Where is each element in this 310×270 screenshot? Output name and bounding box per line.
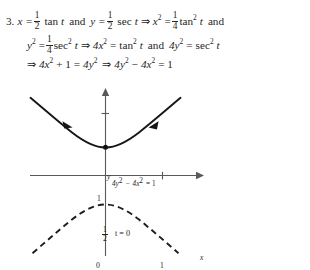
four-y-term-c: 4y [114, 58, 125, 70]
solution-line-2: y2=14sec2t⇒4x2=tan2tand4y2=sec2t [27, 35, 220, 55]
sec-operator-c: sec [196, 39, 210, 51]
exponent-b: 2 [193, 13, 197, 22]
exponent-j: 2 [94, 56, 98, 65]
four-x-term-b: 4x [39, 58, 50, 70]
exponent-g: 2 [180, 37, 184, 46]
curve-eq-lhs: 4y [112, 180, 119, 188]
curve-equation-label: 4y2−4x2= 1 [112, 181, 156, 189]
fraction-one-half-b: 12 [107, 11, 114, 31]
implies-arrow-c: ⇒ [27, 58, 36, 70]
and-word-a: and [69, 15, 85, 27]
fraction-one-half-vertex: 12 [102, 226, 108, 242]
tan-operator-a: tan [44, 15, 58, 27]
exponent-a: 2 [158, 13, 162, 22]
equals-one: = 1 [158, 58, 173, 70]
var-t-c: t [200, 15, 203, 27]
var-t-e: t [140, 39, 143, 51]
fraction-one-quarter-b: 14 [46, 35, 53, 55]
var-t-b: t [135, 15, 138, 27]
graph-canvas [0, 84, 310, 261]
var-t-f: t [217, 39, 220, 51]
var-t-d: t [75, 39, 78, 51]
exponent-c: 2 [32, 37, 36, 46]
equation-x-def: x = [17, 15, 32, 27]
plus-one-equals: + 1 = [56, 58, 80, 70]
exponent-f: 2 [133, 37, 137, 46]
exponent-l: 2 [151, 56, 155, 65]
hyperbola-graph-figure: y x 1 1 0 t = 0 12 4y2−4x2= 1 [0, 84, 310, 261]
implies-arrow-a: ⇒ [141, 15, 150, 27]
curve-eq-lhs-exp: 2 [119, 176, 123, 185]
exponent-e: 2 [103, 37, 107, 46]
four-y-term-b: 4y [83, 58, 94, 70]
tan-operator-b: tan [179, 15, 193, 27]
implies-arrow-b: ⇒ [81, 39, 90, 51]
vertex-point-t-zero [103, 145, 108, 150]
four-y-term-a: 4y [169, 39, 180, 51]
tan-operator-c: tan [119, 39, 133, 51]
y-axis-tick-label-1: 1 [97, 195, 101, 203]
vertex-value-one-half-label: 12 [101, 226, 109, 244]
minus-sign: − [132, 58, 138, 70]
solution-line-1: 3.x =12tantandy =12sect⇒x2=14tan2tand [6, 11, 224, 31]
and-word-c: and [148, 39, 164, 51]
equals-a: = [164, 15, 170, 27]
and-word-b: and [208, 15, 224, 27]
x-axis-label: x [200, 254, 203, 261]
origin-label: 0 [96, 262, 100, 270]
x-axis-arrowhead [196, 172, 204, 179]
fraction-one-half-a: 12 [34, 11, 41, 31]
exponent-h: 2 [210, 37, 214, 46]
y-axis-label: y [107, 173, 110, 180]
x-axis-tick-label-1: 1 [160, 262, 164, 270]
four-x-term-a: 4x [93, 39, 104, 51]
fraction-one-quarter-a: 14 [172, 11, 179, 31]
equals-b: = [39, 39, 45, 51]
exponent-d: 2 [68, 37, 72, 46]
four-x-term-c: 4x [141, 58, 152, 70]
solution-line-3: ⇒4x2+ 1 =4y2⇒4y2−4x2= 1 [27, 59, 173, 70]
equation-y-def: y = [90, 15, 105, 27]
upper-branch-left-direction-arrow [63, 121, 73, 128]
curve-eq-minus: − [126, 180, 130, 188]
implies-arrow-d: ⇒ [102, 58, 111, 70]
y-axis-arrowhead [102, 88, 109, 96]
curve-eq-rhs-exp: 2 [139, 176, 143, 185]
sec-operator-a: sec [117, 15, 131, 27]
var-t-a: t [61, 15, 64, 27]
parameter-t-zero-label: t = 0 [115, 230, 130, 238]
exponent-k: 2 [125, 56, 129, 65]
curve-eq-equals-one: = 1 [146, 180, 155, 188]
problem-number: 3. [6, 15, 14, 27]
equals-d: = [186, 39, 192, 51]
exponent-i: 2 [50, 56, 54, 65]
equals-c: = [110, 39, 116, 51]
sec-operator-b: sec [54, 39, 68, 51]
